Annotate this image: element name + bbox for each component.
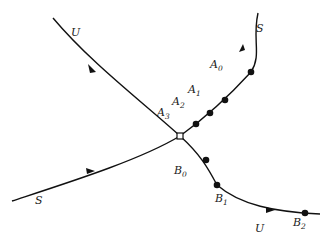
point-A0	[248, 69, 255, 76]
label-S-upper: S	[256, 22, 264, 35]
fixed-point-marker	[177, 133, 183, 139]
label-B1: B1	[214, 192, 228, 207]
arrow-icon-unstable-upper	[88, 64, 96, 73]
point-A1	[222, 97, 229, 104]
label-B0: B0	[173, 164, 187, 179]
saddle-point-diagram: U U S S A0 A1 A2 A3 B0 B1 B2	[0, 0, 336, 238]
label-U-upper: U	[71, 26, 81, 39]
label-A3: A3	[156, 106, 170, 121]
label-U-lower: U	[255, 222, 265, 235]
point-B0	[203, 157, 210, 164]
label-A1: A1	[187, 83, 201, 98]
unstable-manifold-curve	[53, 18, 320, 214]
point-A2	[207, 110, 214, 117]
label-A2: A2	[171, 95, 185, 110]
point-A3	[193, 121, 200, 128]
label-B2: B2	[292, 216, 306, 231]
stable-manifold-curve	[12, 13, 258, 201]
label-S-lower: S	[35, 194, 43, 207]
label-A0: A0	[209, 58, 223, 73]
point-B2	[302, 210, 309, 217]
arrow-icon-stable-upper	[239, 44, 245, 52]
point-B1	[214, 182, 221, 189]
